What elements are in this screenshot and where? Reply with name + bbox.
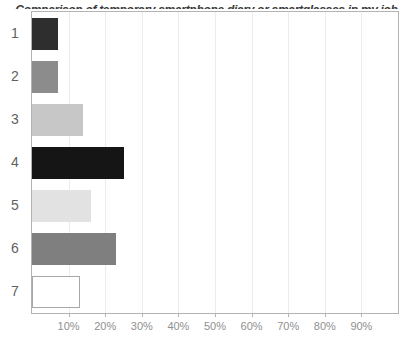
chart-title: Comparison of temporary smartphone diary…: [0, 0, 413, 9]
x-tick-mark: [288, 314, 289, 317]
gridline: [142, 12, 143, 313]
x-tick-label-30%: 30%: [131, 320, 153, 332]
x-tick-label-20%: 20%: [94, 320, 116, 332]
x-tick-mark: [252, 314, 253, 317]
bar-category-6: [32, 233, 116, 265]
category-label-5: 5: [4, 184, 26, 227]
x-tick-label-10%: 10%: [58, 320, 80, 332]
bar-category-1: [32, 18, 58, 50]
chart-title-text: Comparison of temporary smartphone diary…: [15, 3, 397, 9]
x-tick-mark: [215, 314, 216, 317]
x-tick-mark: [361, 314, 362, 317]
x-tick-label-70%: 70%: [277, 320, 299, 332]
gridline: [325, 12, 326, 313]
x-tick-mark: [178, 314, 179, 317]
x-tick-mark: [142, 314, 143, 317]
x-tick-label-80%: 80%: [314, 320, 336, 332]
bar-category-5: [32, 190, 91, 222]
gridline: [252, 12, 253, 313]
bar-category-7: [32, 276, 80, 308]
gridline: [288, 12, 289, 313]
x-tick-label-40%: 40%: [167, 320, 189, 332]
x-tick-label-50%: 50%: [204, 320, 226, 332]
category-label-3: 3: [4, 98, 26, 141]
x-tick-mark: [325, 314, 326, 317]
category-label-6: 6: [4, 227, 26, 270]
x-tick-label-90%: 90%: [350, 320, 372, 332]
bar-category-3: [32, 104, 83, 136]
x-tick-mark: [69, 314, 70, 317]
x-tick-mark: [105, 314, 106, 317]
category-label-2: 2: [4, 55, 26, 98]
gridline: [361, 12, 362, 313]
category-label-7: 7: [4, 270, 26, 313]
gridline: [178, 12, 179, 313]
bar-category-2: [32, 61, 58, 93]
category-label-4: 4: [4, 141, 26, 184]
x-tick-label-60%: 60%: [241, 320, 263, 332]
bar-category-4: [32, 147, 124, 179]
category-label-1: 1: [4, 12, 26, 55]
plot-area: [31, 11, 399, 314]
gridline: [215, 12, 216, 313]
